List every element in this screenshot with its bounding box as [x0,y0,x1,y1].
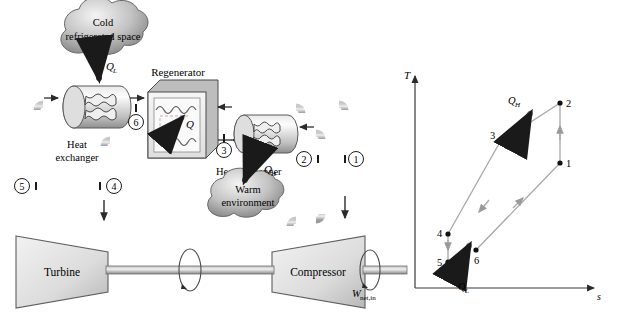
state-1-label: 1 [354,154,359,165]
warm-cloud-line2: environment [221,197,274,208]
state-3-label: 3 [222,145,227,156]
ts-point-5-label: 5 [437,257,442,268]
cold-cloud-line1: Cold [93,17,114,28]
state-4-label: 4 [112,181,117,192]
QL-subscript: L [112,67,117,75]
ts-point-2 [557,100,562,105]
hx-cold-cap [63,86,85,128]
hx-warm-cap [234,115,254,153]
pipe-elbow-4 [104,140,110,146]
regenerator-label: Regenerator [151,66,205,78]
ts-point-4 [445,231,450,236]
ts-process-3-4 [448,142,500,234]
ts-QL-arrow-icon [455,246,469,272]
pipe-elbow-2a [316,133,322,139]
QL-label: Q L [106,60,117,75]
rotation-arrow-left-icon [181,284,187,289]
cold-cloud-line2: refrigerated space [66,31,141,42]
warm-cloud-line1: Warm [235,184,260,195]
ts-QL-subscript: L [464,287,469,295]
turbine-label: Turbine [44,266,80,278]
ts-process-6-1 [476,163,560,250]
ts-point-1-label: 1 [566,158,571,169]
ts-y-axis-label: T [404,69,411,81]
ts-QL-annotation: Q L [455,246,469,295]
figure-canvas: Turbine Compressor W net,in Heat exchang… [0,0,619,315]
hx-cold-label-1: Heat [67,139,87,150]
ts-point-6 [473,247,478,252]
cold-refrigerated-space: Cold refrigerated space Q L [61,0,148,78]
ts-state-points: 1 2 3 4 5 6 [437,98,571,268]
ts-point-6-label: 6 [474,255,479,266]
pipe-elbow-1a [296,107,302,113]
ts-arrow-3-4-icon [479,200,489,212]
pipe-elbow-2b [316,214,322,220]
QL-arrow-icon [96,50,99,78]
compressor-label: Compressor [290,266,346,279]
state-marker-5: 5 [15,179,37,194]
QH-subscript: H [270,170,277,178]
ts-point-1 [557,160,562,165]
ts-QH-annotation: Q H [508,95,530,140]
state-2-label: 2 [302,154,307,165]
ts-point-4-label: 4 [437,228,443,239]
ts-x-axis-label: s [597,291,601,302]
ts-point-3-label: 3 [490,130,495,141]
schematic-and-ts-diagram: Turbine Compressor W net,in Heat exchang… [0,0,619,315]
hx-cold-label-2: exchanger [55,152,99,163]
shaft-left [106,266,274,274]
turbine[interactable]: Turbine [16,236,108,308]
pipe-elbow-2c [290,220,296,226]
state-marker-2: 2 [297,152,319,167]
regen-q-label: Q [186,118,194,130]
ts-point-3 [497,139,502,144]
w-subscript: net,in [360,294,376,302]
ts-diagram: T s 1 2 3 4 5 6 Q [404,69,601,302]
ts-point-2-label: 2 [566,98,571,109]
state-5-label: 5 [20,181,25,192]
shaft-right [363,266,407,274]
ts-process-2-3 [500,103,560,142]
ts-QH-arrow-icon [516,114,530,140]
ts-point-5 [445,259,450,264]
ts-QH-subscript: H [514,101,521,109]
warm-environment: Warm environment Q H [208,152,284,217]
state-6-label: 6 [134,117,139,128]
